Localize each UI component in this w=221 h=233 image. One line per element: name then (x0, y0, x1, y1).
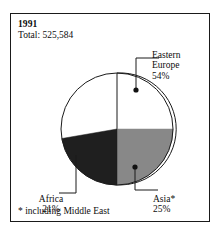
chart-footnote: * including Middle East (18, 206, 110, 216)
pie-slice-africa[interactable] (62, 129, 117, 185)
figure-frame: 1991 Total: 525,584 Eastern Europe 54% (10, 13, 210, 222)
pie-chart (11, 14, 211, 223)
marker-dot-eastern-europe (133, 87, 138, 92)
pie-label-eastern-europe-line2: Europe (152, 60, 179, 70)
pie-chart-svg (11, 14, 211, 223)
pie-value-asia: 25% (153, 204, 175, 214)
pie-label-africa-line1: Africa (39, 194, 63, 204)
pie-label-asia-line1: Asia* (153, 194, 175, 204)
pie-label-asia: Asia* 25% (153, 194, 175, 215)
pie-label-eastern-europe: Eastern Europe 54% (152, 50, 181, 81)
pie-label-eastern-europe-line1: Eastern (152, 50, 181, 60)
pie-value-eastern-europe: 54% (152, 71, 181, 81)
pie-slice-asia[interactable] (117, 129, 173, 185)
marker-dot-asia (132, 164, 137, 169)
